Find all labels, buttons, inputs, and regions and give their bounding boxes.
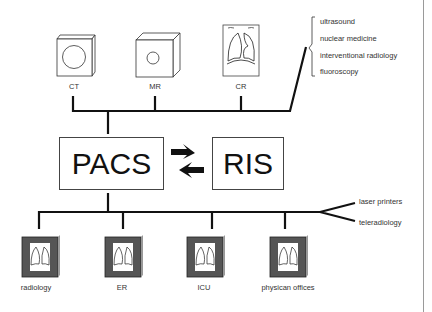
modality-label-mr: MR [149,82,161,91]
ct-scanner-icon [57,35,95,76]
page-edge-rule [423,0,424,312]
modality-bus [72,47,306,134]
output-laser-printers: laser printers [359,197,402,206]
workstation-monitor-icon [187,235,225,277]
workstation-label-physician-offices: physican offices [261,283,314,292]
other-modality-fluoroscopy: fluoroscopy [320,67,358,76]
workstation-monitor-icon [105,235,143,277]
workstation-bus [39,193,355,229]
ris-label: RIS [223,147,273,181]
other-modality-nuclear-medicine: nuclear medicine [320,34,377,43]
output-teleradiology: teleradiology [359,218,402,227]
other-modality-interventional-radiology: interventional radiology [320,51,397,60]
pacs-box: PACS [59,137,164,190]
workstation-monitor-icon [22,235,60,277]
workstation-label-icu: ICU [198,283,211,292]
modality-label-cr: CR [236,82,247,91]
workstation-label-er: ER [117,283,127,292]
mr-scanner-icon [136,33,180,77]
bidirectional-arrow-icon [171,144,204,178]
modality-label-ct: CT [69,82,79,91]
other-modality-ultrasound: ultrasound [320,17,355,26]
workstation-monitor-icon [270,235,308,277]
pacs-label: PACS [72,147,151,181]
modalities-brace [309,17,315,76]
ris-box: RIS [212,137,284,190]
workstation-label-radiology: radiology [21,283,51,292]
cr-xray-icon [223,25,259,76]
